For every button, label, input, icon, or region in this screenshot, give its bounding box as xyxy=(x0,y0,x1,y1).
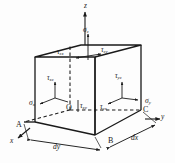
axis-label-x: x xyxy=(10,137,13,144)
tau-yz-subscript: yz xyxy=(118,75,122,80)
sigma-x-label: σx xyxy=(29,99,35,107)
vertex-label-c: C xyxy=(143,106,148,114)
tau-zx-subscript: zx xyxy=(60,51,64,56)
tau-xy-label: τxy xyxy=(80,103,87,111)
vertex-label-b: B xyxy=(108,137,113,145)
vertex-label-a: A xyxy=(16,121,22,129)
stress-element-drawing xyxy=(0,0,175,163)
tau-xz-subscript: xz xyxy=(50,77,54,82)
sigma-y-label: σy xyxy=(145,97,151,105)
tau-xy-subscript: xy xyxy=(83,105,87,110)
tau-yz-label: τyz xyxy=(115,73,122,81)
vertex-label-origin: O xyxy=(66,104,72,112)
left-face-stress-arrows xyxy=(40,82,68,104)
sigma-z-subscript: z xyxy=(87,29,89,34)
top-face-shear-arrows xyxy=(76,51,101,60)
stress-element-figure: z x y O A B C σz σx σy τzx τzy τxz τyz τ… xyxy=(0,0,175,163)
sigma-x-subscript: x xyxy=(33,102,35,107)
tau-yx-label: τyx xyxy=(100,104,107,112)
tau-yx-subscript: yx xyxy=(103,106,107,111)
cube-bottom-edges xyxy=(24,110,141,135)
dimension-label-dx: dx xyxy=(131,134,138,142)
sigma-y-subscript: y xyxy=(149,100,151,105)
sigma-z-label: σz xyxy=(83,26,89,34)
axis-label-z: z xyxy=(84,2,87,9)
tau-zy-label: τzy xyxy=(101,47,108,55)
x-axis-line xyxy=(18,128,30,138)
dimension-label-dy: dy xyxy=(53,143,60,151)
axis-label-y: y xyxy=(161,113,164,120)
tau-zx-label: τzx xyxy=(57,49,64,57)
tau-xz-label: τxz xyxy=(47,75,54,83)
right-face-stress-arrows xyxy=(108,82,138,104)
tau-zy-subscript: zy xyxy=(104,49,108,54)
